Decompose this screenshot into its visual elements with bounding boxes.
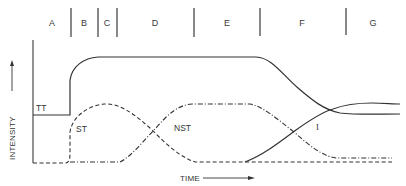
curve-label-st: ST bbox=[76, 124, 87, 134]
region-label-f: F bbox=[299, 18, 305, 28]
intensity-time-diagram: A B C D E F G INTENSITY TIME TT ST bbox=[0, 0, 406, 186]
x-axis-label: TIME bbox=[180, 174, 200, 183]
y-axis-label-group: INTENSITY bbox=[8, 60, 17, 160]
curve-label-nst: NST bbox=[174, 123, 191, 133]
curve-nst bbox=[70, 104, 392, 162]
region-label-e: E bbox=[224, 18, 230, 28]
region-label-a: A bbox=[49, 18, 55, 28]
region-dividers bbox=[71, 8, 346, 37]
y-axis-label: INTENSITY bbox=[8, 116, 17, 160]
region-label-b: B bbox=[81, 18, 87, 28]
x-axis-arrow-icon bbox=[248, 176, 255, 180]
curve-tt bbox=[33, 57, 400, 115]
curve-label-i: I bbox=[316, 122, 319, 132]
region-label-c: C bbox=[104, 18, 111, 28]
x-axis-label-group: TIME bbox=[180, 174, 255, 183]
y-axis-arrow-icon bbox=[10, 60, 14, 66]
region-label-d: D bbox=[152, 18, 159, 28]
region-label-g: G bbox=[369, 18, 376, 28]
curve-label-tt: TT bbox=[36, 103, 46, 113]
